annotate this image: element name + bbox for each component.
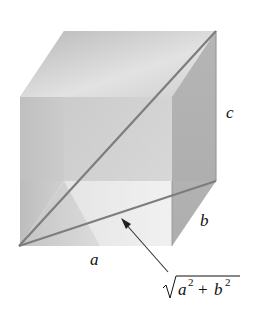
label-c: c bbox=[226, 103, 234, 122]
diagonal-formula: a 2 + b 2 bbox=[163, 276, 240, 299]
svg-text:b: b bbox=[214, 280, 223, 299]
svg-text:2: 2 bbox=[188, 276, 194, 288]
front-face bbox=[20, 97, 172, 181]
svg-text:a: a bbox=[178, 280, 187, 299]
box-diagram: c b a a 2 + b 2 bbox=[0, 0, 257, 315]
label-a: a bbox=[90, 250, 99, 269]
svg-text:+: + bbox=[198, 280, 208, 299]
svg-text:2: 2 bbox=[225, 276, 231, 288]
label-b: b bbox=[200, 211, 209, 230]
